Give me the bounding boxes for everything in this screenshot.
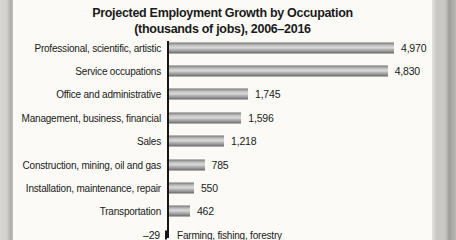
value-label: –29: [0, 229, 160, 240]
bar: [169, 159, 205, 170]
category-label: Professional, scientific, artistic: [0, 42, 161, 53]
chart-row: Construction, mining, oil and gas785: [0, 159, 456, 171]
value-label: 785: [212, 159, 229, 171]
value-label: 4,970: [401, 42, 426, 54]
value-label: 550: [201, 182, 218, 194]
category-label: Transportation: [0, 206, 161, 217]
chart-row: Professional, scientific, artistic4,970: [0, 42, 456, 54]
category-label: Management, business, financial: [0, 112, 161, 123]
category-label: Office and administrative: [0, 89, 161, 100]
bar: [169, 206, 190, 217]
chart-row: Service occupations4,830: [0, 65, 456, 77]
bar: [169, 65, 388, 76]
bar: [169, 89, 248, 100]
negative-bar: [165, 230, 167, 239]
bar: [169, 136, 224, 147]
chart-title: Projected Employment Growth by Occupatio…: [13, 5, 432, 37]
category-label: Construction, mining, oil and gas: [0, 159, 161, 170]
chart-row: Sales1,218: [0, 135, 456, 147]
chart-row: Transportation462: [0, 205, 456, 217]
bar: [169, 42, 394, 53]
category-label: Installation, maintenance, repair: [0, 182, 161, 193]
chart-row: Installation, maintenance, repair550: [0, 182, 456, 194]
value-label: 1,745: [255, 88, 280, 100]
category-label: Sales: [0, 136, 161, 147]
bar-chart-plot: Professional, scientific, artistic4,970S…: [0, 41, 456, 240]
chart-row: Office and administrative1,745: [0, 88, 456, 100]
chart-title-line2: (thousands of jobs), 2006–2016: [13, 21, 432, 37]
chart-title-line1: Projected Employment Growth by Occupatio…: [13, 5, 432, 21]
value-label: 1,596: [248, 112, 273, 124]
value-label: 462: [197, 205, 214, 217]
bar: [169, 112, 241, 123]
scanned-chart-page: Projected Employment Growth by Occupatio…: [0, 0, 456, 240]
value-label: 4,830: [395, 65, 420, 77]
category-label: Farming, fishing, forestry: [177, 229, 282, 240]
category-label: Service occupations: [0, 65, 161, 76]
bar: [169, 182, 194, 193]
chart-row: –29Farming, fishing, forestry: [0, 229, 456, 240]
chart-row: Management, business, financial1,596: [0, 112, 456, 124]
value-label: 1,218: [231, 135, 256, 147]
